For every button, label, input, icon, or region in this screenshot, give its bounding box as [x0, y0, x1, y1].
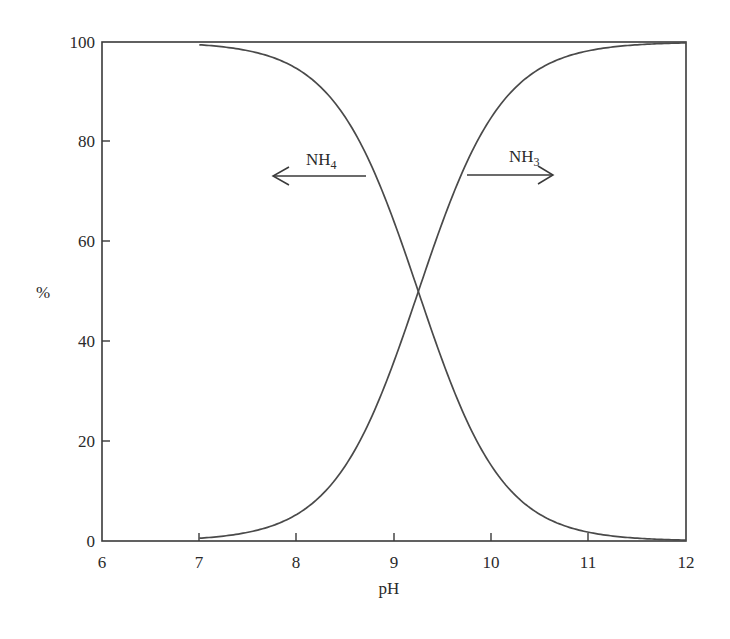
nh3-label: NH3 [509, 147, 540, 169]
y-axis-tick-labels: 0 20 40 60 80 100 [70, 33, 96, 551]
y-tick-label: 20 [78, 432, 95, 451]
x-tick-label: 12 [678, 553, 695, 572]
nh4-annotation: NH4 [273, 150, 366, 185]
x-tick-label: 7 [195, 553, 204, 572]
left-arrow-icon [273, 167, 366, 185]
speciation-chart: 0 20 40 60 80 100 6 7 8 9 10 11 12 % pH … [0, 0, 730, 639]
nh3-annotation: NH3 [467, 147, 553, 184]
x-axis-ticks [199, 533, 588, 541]
x-tick-label: 11 [580, 553, 596, 572]
right-arrow-icon [467, 166, 553, 184]
x-tick-label: 9 [390, 553, 399, 572]
x-axis-title: pH [379, 579, 400, 598]
x-axis-tick-labels: 6 7 8 9 10 11 12 [98, 553, 695, 572]
y-axis-ticks [102, 141, 110, 441]
y-axis-title: % [36, 283, 50, 302]
x-tick-label: 8 [292, 553, 301, 572]
y-tick-label: 60 [78, 232, 95, 251]
x-tick-label: 10 [483, 553, 500, 572]
nh4-curve [199, 45, 686, 540]
x-tick-label: 6 [98, 553, 107, 572]
nh3-curve [199, 43, 686, 538]
y-tick-label: 100 [70, 33, 96, 52]
y-tick-label: 40 [78, 332, 95, 351]
y-tick-label: 0 [87, 532, 96, 551]
nh4-label: NH4 [306, 150, 337, 172]
y-tick-label: 80 [78, 132, 95, 151]
plot-frame [102, 42, 686, 541]
